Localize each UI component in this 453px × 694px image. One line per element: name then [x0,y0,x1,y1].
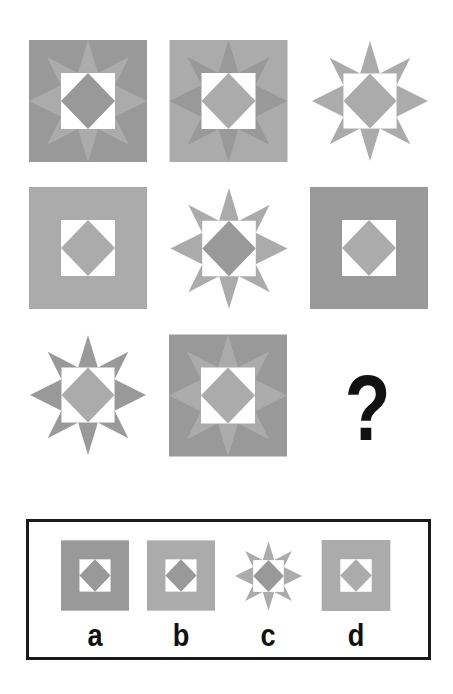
square-diamond-figure [321,540,391,611]
square-diamond-figure [310,187,428,309]
missing-cell-question-mark: ? [337,360,399,455]
option-d-label[interactable]: d [339,619,373,651]
grid-cell-r1c3 [311,41,429,161]
star-diamond-figure [311,41,429,161]
square-star-diamond-figure [29,40,147,162]
square-diamond-figure [61,540,129,611]
square-diamond-figure [29,187,147,309]
star-diamond-figure [30,335,146,455]
grid-cell-r3c2 [169,334,287,457]
option-a-figure[interactable] [61,540,129,611]
option-b-figure[interactable] [147,540,215,611]
grid-cell-r2c3 [310,187,428,309]
square-star-diamond-figure [169,334,287,457]
star-diamond-figure [235,541,302,611]
option-d-figure[interactable] [321,540,391,611]
square-star-diamond-figure [169,40,288,162]
grid-cell-r1c1 [29,40,147,162]
option-c-figure[interactable] [235,541,302,611]
grid-cell-r2c2 [170,188,288,309]
star-diamond-figure [170,188,288,309]
grid-cell-r1c2 [169,40,288,162]
square-diamond-figure [147,540,215,611]
option-c-label[interactable]: c [251,619,285,651]
option-b-label[interactable]: b [164,619,198,651]
grid-cell-r3c1 [30,335,146,455]
option-a-label[interactable]: a [78,619,112,651]
grid-cell-r2c1 [29,187,147,309]
